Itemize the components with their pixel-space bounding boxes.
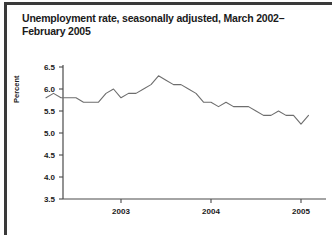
- y-tick-label: 5.5: [44, 107, 56, 116]
- y-tick-label: 3.5: [44, 195, 56, 204]
- y-tick-label: 4.5: [44, 151, 56, 160]
- y-axis-ticks: 6.56.05.55.04.54.03.5: [44, 63, 63, 204]
- figure-container: Unemployment rate, seasonally adjusted, …: [0, 0, 332, 235]
- y-tick-label: 5.0: [44, 129, 56, 138]
- chart-svg: 6.56.05.55.04.54.03.5 200320042005: [0, 0, 332, 235]
- y-tick-label: 6.0: [44, 85, 56, 94]
- y-tick-label: 6.5: [44, 63, 56, 72]
- x-axis-ticks: 200320042005: [112, 199, 310, 216]
- plot-area: 6.56.05.55.04.54.03.5 200320042005: [0, 0, 332, 235]
- x-tick-label: 2005: [292, 207, 310, 216]
- y-tick-label: 4.0: [44, 173, 56, 182]
- unemployment-rate-line: [46, 76, 309, 124]
- x-tick-label: 2003: [112, 207, 130, 216]
- x-tick-label: 2004: [202, 207, 220, 216]
- figure-caption: [22, 228, 322, 235]
